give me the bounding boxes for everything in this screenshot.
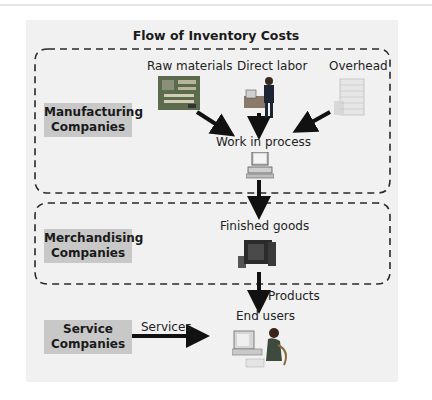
service-label-line1: Service	[44, 322, 132, 337]
monitor-icon	[238, 238, 278, 270]
manufacturing-label-line2: Companies	[44, 120, 132, 135]
computer-icon	[246, 152, 274, 180]
service-companies-label: Service Companies	[44, 320, 132, 354]
worker-icon	[244, 76, 278, 122]
circuit-board-icon	[158, 76, 200, 110]
merchandising-label-line1: Merchandising	[44, 231, 132, 246]
manufacturing-companies-label: Manufacturing Companies	[44, 103, 132, 137]
raw-materials-label: Raw materials	[147, 59, 232, 73]
merchandising-label-line2: Companies	[44, 246, 132, 261]
services-edge-label: Services	[141, 320, 192, 334]
person-at-computer-icon	[232, 327, 294, 373]
overhead-label: Overhead	[329, 59, 388, 73]
direct-labor-label: Direct labor	[237, 59, 307, 73]
manufacturing-label-line1: Manufacturing	[44, 105, 132, 120]
work-in-process-label: Work in process	[216, 135, 311, 149]
office-building-icon	[334, 77, 370, 117]
products-edge-label: Products	[268, 289, 320, 303]
end-users-label: End users	[236, 309, 295, 323]
service-label-line2: Companies	[44, 337, 132, 352]
merchandising-companies-label: Merchandising Companies	[44, 229, 132, 263]
finished-goods-label: Finished goods	[220, 219, 309, 233]
